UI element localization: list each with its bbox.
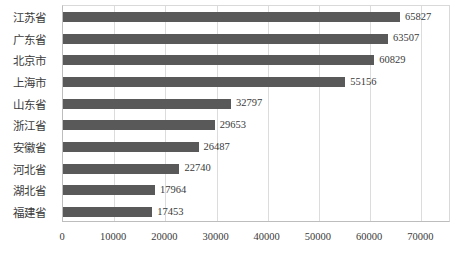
bar-value-label: 55156 (350, 77, 376, 88)
bar-value-label: 60829 (379, 55, 405, 66)
bar-value-label: 65827 (405, 12, 431, 23)
bar (63, 77, 345, 87)
category-label: 上海市 (0, 74, 58, 90)
bar-row: 55156 (63, 71, 449, 93)
x-tick-label: 10000 (100, 231, 126, 242)
bar (63, 185, 155, 195)
bar-row: 32797 (63, 93, 449, 115)
bar-row: 17453 (63, 201, 449, 223)
bar (63, 207, 152, 217)
bar-row: 65827 (63, 6, 449, 28)
bar (63, 12, 400, 22)
category-label: 山东省 (0, 96, 58, 112)
bar (63, 120, 215, 130)
bar (63, 99, 231, 109)
bar-value-label: 17453 (157, 207, 183, 218)
x-tick-label: 0 (59, 231, 64, 242)
category-label: 浙江省 (0, 117, 58, 133)
bar-row: 17964 (63, 180, 449, 202)
bar-chart: 江苏省广东省北京市上海市山东省浙江省安徽省河北省湖北省福建省 658276350… (0, 0, 458, 261)
bar-value-label: 32797 (236, 98, 262, 109)
x-tick-label: 20000 (151, 231, 177, 242)
bar (63, 164, 179, 174)
category-label: 湖北省 (0, 182, 58, 198)
bar-row: 22740 (63, 158, 449, 180)
x-tick-label: 50000 (305, 231, 331, 242)
bar-row: 63507 (63, 28, 449, 50)
category-label: 广东省 (0, 31, 58, 47)
bar-value-label: 17964 (160, 185, 186, 196)
x-tick-label: 70000 (407, 231, 433, 242)
bar-value-label: 29653 (220, 120, 246, 131)
bar (63, 55, 374, 65)
bar-value-label: 63507 (393, 33, 419, 44)
x-tick-label: 30000 (202, 231, 228, 242)
bar-value-label: 26487 (204, 142, 230, 153)
bar (63, 142, 199, 152)
bar-row: 60829 (63, 49, 449, 71)
bar-row: 29653 (63, 115, 449, 137)
x-tick-label: 40000 (254, 231, 280, 242)
bar-value-label: 22740 (184, 163, 210, 174)
bar-row: 26487 (63, 136, 449, 158)
category-label: 江苏省 (0, 9, 58, 25)
bar (63, 34, 388, 44)
plot-area: 6582763507608295515632797296532648722740… (62, 5, 450, 222)
category-label: 安徽省 (0, 139, 58, 155)
category-label: 河北省 (0, 161, 58, 177)
category-label: 福建省 (0, 204, 58, 220)
x-tick-label: 60000 (356, 231, 382, 242)
category-label: 北京市 (0, 52, 58, 68)
